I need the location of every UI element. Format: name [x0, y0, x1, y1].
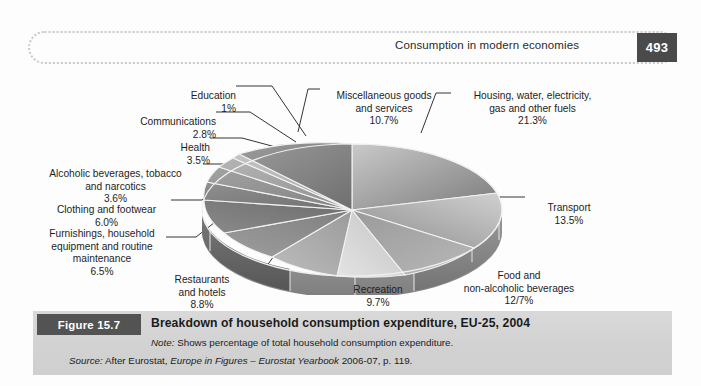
- pie-label-transport-value: 13.5%: [528, 215, 610, 227]
- figure-note-text: Shows percentage of total household cons…: [174, 337, 453, 348]
- page-number-text: 493: [646, 40, 669, 55]
- running-head: Consumption in modern economies: [395, 39, 579, 51]
- figure-source-title: Europe in Figures – Eurostat Yearbook: [170, 355, 339, 366]
- pie-label-education-name: Education: [191, 90, 236, 101]
- pie-label-restaurants-hotels-value: 8.8%: [160, 299, 244, 311]
- pie-label-health-name: Health: [181, 142, 210, 153]
- pie-label-transport-name: Transport: [547, 202, 590, 213]
- pie-label-food-beverages-value: 12/7%: [444, 295, 594, 307]
- figure-caption-block: Figure 15.7 Breakdown of household consu…: [33, 311, 672, 375]
- figure-source-keyword: Source:: [69, 355, 103, 366]
- figure-note: Note: Shows percentage of total househol…: [151, 337, 453, 348]
- pie-label-recreation-value: 9.7%: [333, 297, 423, 309]
- figure-source-suffix: 2006-07, p. 119.: [339, 355, 412, 366]
- figure-number-text: Figure 15.7: [58, 319, 120, 331]
- pie-label-furnishings-value: 6.5%: [38, 266, 166, 278]
- book-page: Consumption in modern economies 493: [0, 0, 701, 386]
- pie-label-alcoholic-beverages-name: Alcoholic beverages, tobacco and narcoti…: [49, 168, 182, 191]
- pie-label-miscellaneous: Miscellaneous goods and services 10.7%: [322, 78, 446, 140]
- pie-label-housing-name: Housing, water, electricity, gas and oth…: [474, 90, 592, 113]
- pie-label-food-beverages-name: Food and non-alcoholic beverages: [464, 270, 574, 293]
- pie-label-restaurants-hotels-name: Restaurants and hotels: [175, 274, 230, 297]
- pie-label-communications-name: Communications: [140, 116, 216, 127]
- figure-number-badge: Figure 15.7: [37, 314, 141, 335]
- figure-chart-area: Education 1% Communications 2.8% Health …: [0, 70, 701, 308]
- figure-title: Breakdown of household consumption expen…: [151, 316, 530, 330]
- figure-source: Source: After Eurostat, Europe in Figure…: [69, 355, 412, 366]
- pie-label-miscellaneous-value: 10.7%: [322, 115, 446, 127]
- pie-label-clothing-footwear-name: Clothing and footwear: [57, 204, 156, 215]
- pie-label-transport: Transport 13.5%: [528, 190, 610, 240]
- pie-label-housing-value: 21.3%: [455, 115, 610, 127]
- figure-note-keyword: Note:: [151, 337, 174, 348]
- pie-label-recreation-name: Recreation: [353, 284, 402, 295]
- pie-label-furnishings-name: Furnishings, household equipment and rou…: [49, 228, 154, 264]
- pie-label-miscellaneous-name: Miscellaneous goods and services: [336, 90, 431, 113]
- page-number-badge: 493: [637, 33, 677, 62]
- figure-source-prefix: After Eurostat,: [103, 355, 171, 366]
- pie-label-housing: Housing, water, electricity, gas and oth…: [455, 78, 610, 140]
- pie-label-furnishings: Furnishings, household equipment and rou…: [38, 216, 166, 290]
